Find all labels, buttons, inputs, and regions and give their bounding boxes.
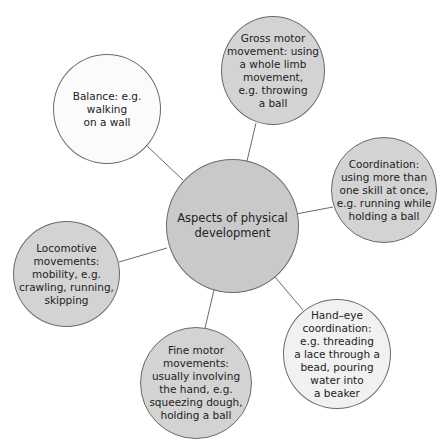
node-gross-motor: Gross motor movement: using a whole limb… xyxy=(221,16,325,125)
connector-coordination xyxy=(296,207,333,214)
node-hand-eye: Hand–eye coordination: e.g. threading a … xyxy=(283,299,391,409)
gross-motor-label: Gross motor movement: using a whole limb… xyxy=(227,32,319,110)
hand-eye-label: Hand–eye coordination: e.g. threading a … xyxy=(294,309,380,400)
node-coordination: Coordination: using more than one skill … xyxy=(331,137,437,243)
connector-hand-eye xyxy=(275,277,303,310)
locomotive-label: Locomotive movements: mobility, e.g. cra… xyxy=(19,242,114,307)
center-label: Aspects of physical development xyxy=(177,211,288,241)
connector-balance xyxy=(147,146,183,180)
fine-motor-label: Fine motor movements: usually involving … xyxy=(149,344,242,422)
coordination-label: Coordination: using more than one skill … xyxy=(337,158,432,223)
node-balance: Balance: e.g. walking on a wall xyxy=(53,54,161,164)
node-fine-motor: Fine motor movements: usually involving … xyxy=(140,327,252,439)
center-node: Aspects of physical development xyxy=(166,159,299,293)
connector-gross-motor xyxy=(247,123,256,161)
node-locomotive: Locomotive movements: mobility, e.g. cra… xyxy=(13,221,120,327)
balance-label: Balance: e.g. walking on a wall xyxy=(73,90,142,129)
connector-fine-motor xyxy=(205,290,214,328)
connector-locomotive xyxy=(119,248,167,262)
